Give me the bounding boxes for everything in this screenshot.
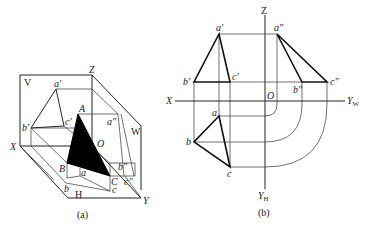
label-b-prime-a: b′	[22, 122, 30, 133]
label-o-a: O	[97, 138, 104, 149]
caption-a: (a)	[77, 209, 88, 221]
label-b-dprime-b: b″	[293, 84, 303, 95]
label-c-dprime-a: c″	[124, 176, 133, 187]
label-c-prime-b: c′	[232, 71, 239, 82]
label-b-b: b	[186, 136, 191, 147]
label-h-plane: H	[75, 189, 82, 200]
label-c-dprime-b: c″	[330, 76, 339, 87]
front-view-triangle	[194, 34, 230, 82]
label-yw: YW	[347, 95, 360, 108]
label-c-b: c	[227, 168, 232, 179]
label-b-a: b	[64, 183, 69, 194]
label-x-b: X	[165, 95, 173, 106]
label-a-prime-b: a′	[216, 22, 224, 33]
label-w-plane: W	[131, 126, 141, 137]
top-view-triangle	[194, 116, 230, 167]
label-c-prime-a: c′	[65, 116, 72, 127]
label-y-a: Y	[143, 195, 150, 206]
label-b-dprime-a: b″	[118, 161, 128, 172]
label-z-b: Z	[261, 5, 267, 16]
label-a-dprime-a: a″	[107, 116, 117, 127]
label-v-plane: V	[24, 77, 32, 88]
label-a-prime-a: a′	[54, 78, 62, 89]
v-projection-triangle	[31, 89, 64, 128]
caption-b: (b)	[258, 207, 270, 219]
label-a-b: a	[212, 107, 217, 118]
label-o-b: O	[267, 90, 274, 101]
label-a-dprime-b: a″	[274, 22, 284, 33]
label-B: B	[59, 163, 65, 174]
side-view-triangle	[277, 34, 327, 82]
label-a-a: a	[81, 167, 86, 178]
label-c-a: c	[112, 184, 117, 195]
label-b-prime-b: b′	[183, 76, 191, 87]
label-x-a: X	[9, 141, 17, 152]
label-yh: YH	[258, 190, 269, 203]
label-z-a: Z	[89, 64, 95, 75]
figure-a-pictorial: V W H Z X Y O A B C a′ b′ c′ a″ b″ c″ a …	[9, 64, 150, 221]
figure-b-orthographic: Z X O YW YH a′ b′ c′ a″ b″ c″ a b c (b)	[165, 5, 360, 219]
label-A: A	[78, 103, 86, 114]
projection-diagram: V W H Z X Y O A B C a′ b′ c′ a″ b″ c″ a …	[0, 0, 369, 231]
